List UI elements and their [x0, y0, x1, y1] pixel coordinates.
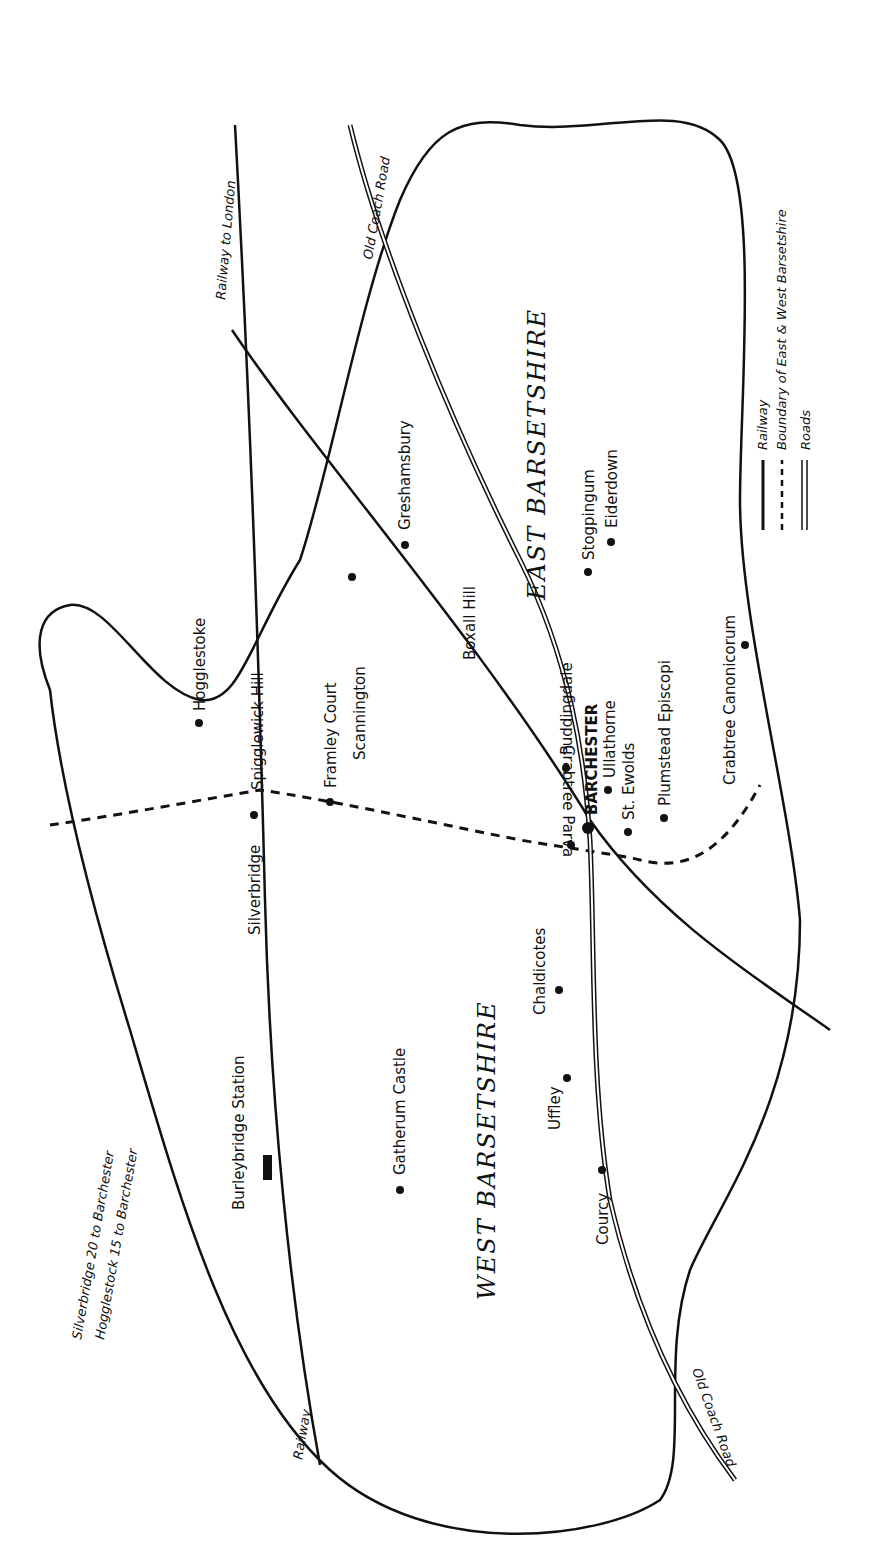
svg-text:WEST BARSETSHIRE: WEST BARSETSHIRE: [473, 1000, 501, 1300]
svg-text:Boxall Hill: Boxall Hill: [461, 586, 479, 660]
svg-text:Courcy: Courcy: [594, 1193, 612, 1245]
svg-text:Stogpingum: Stogpingum: [580, 469, 598, 560]
svg-text:Spigglewick Hill: Spigglewick Hill: [249, 672, 267, 790]
boundary-line: [50, 785, 760, 863]
svg-text:Hogglestoke: Hogglestoke: [191, 618, 209, 711]
svg-text:Framley Court: Framley Court: [322, 682, 340, 788]
svg-text:Greshamsbury: Greshamsbury: [396, 420, 414, 530]
svg-text:Puddingdale: Puddingdale: [558, 662, 576, 755]
legend: Railway Boundary of East & West Barsetsh…: [755, 209, 813, 530]
svg-text:St. Ewolds: St. Ewolds: [620, 742, 638, 820]
railway-main: [235, 125, 320, 1465]
svg-text:Crabtree Canonicorum: Crabtree Canonicorum: [721, 615, 739, 785]
svg-text:BARCHESTER: BARCHESTER: [583, 703, 601, 815]
svg-text:Boundary of East & West Barset: Boundary of East & West Barsetshire: [774, 209, 789, 450]
svg-text:Plumstead Episcopi: Plumstead Episcopi: [656, 660, 674, 806]
svg-text:Uffley: Uffley: [546, 1086, 564, 1130]
svg-text:Silverbridge: Silverbridge: [246, 845, 264, 935]
svg-text:Burleybridge Station: Burleybridge Station: [230, 1056, 248, 1210]
svg-text:Eiderdown: Eiderdown: [603, 449, 621, 528]
svg-text:Railway to London: Railway to London: [213, 180, 238, 301]
svg-text:Ullathorne: Ullathorne: [601, 700, 619, 778]
svg-text:Chaldicotes: Chaldicotes: [531, 927, 549, 1015]
svg-text:EAST BARSETSHIRE: EAST BARSETSHIRE: [523, 308, 551, 601]
svg-text:Railway: Railway: [290, 1408, 314, 1461]
svg-text:Gatherum Castle: Gatherum Castle: [391, 1048, 409, 1175]
barsetshire-map: Hogglestoke Spigglewick Hill Framley Cou…: [0, 0, 869, 1554]
map-labels: Hogglestoke Spigglewick Hill Framley Cou…: [69, 155, 739, 1470]
svg-text:Railway: Railway: [755, 399, 770, 450]
svg-text:Roads: Roads: [798, 410, 813, 450]
svg-text:Scannington: Scannington: [351, 666, 369, 760]
svg-text:Crabtree Parva: Crabtree Parva: [559, 745, 577, 857]
